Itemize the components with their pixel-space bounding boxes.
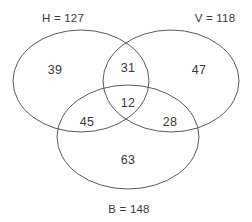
region-value-b-only: 63 [121,153,135,167]
set-label-h: H = 127 [42,12,84,24]
venn-diagram: H = 127 V = 118 B = 148 39 31 47 12 45 2… [0,0,252,222]
venn-diagram-canvas: H = 127 V = 118 B = 148 39 31 47 12 45 2… [0,0,252,222]
region-value-v-only: 47 [192,63,206,77]
set-label-v: V = 118 [195,12,236,24]
region-value-h-v-b: 12 [121,96,135,110]
region-value-h-only: 39 [48,63,62,77]
region-value-v-and-b: 28 [163,115,177,129]
region-value-h-and-v: 31 [121,61,135,75]
region-value-h-and-b: 45 [80,115,94,129]
set-label-b: B = 148 [108,203,149,215]
